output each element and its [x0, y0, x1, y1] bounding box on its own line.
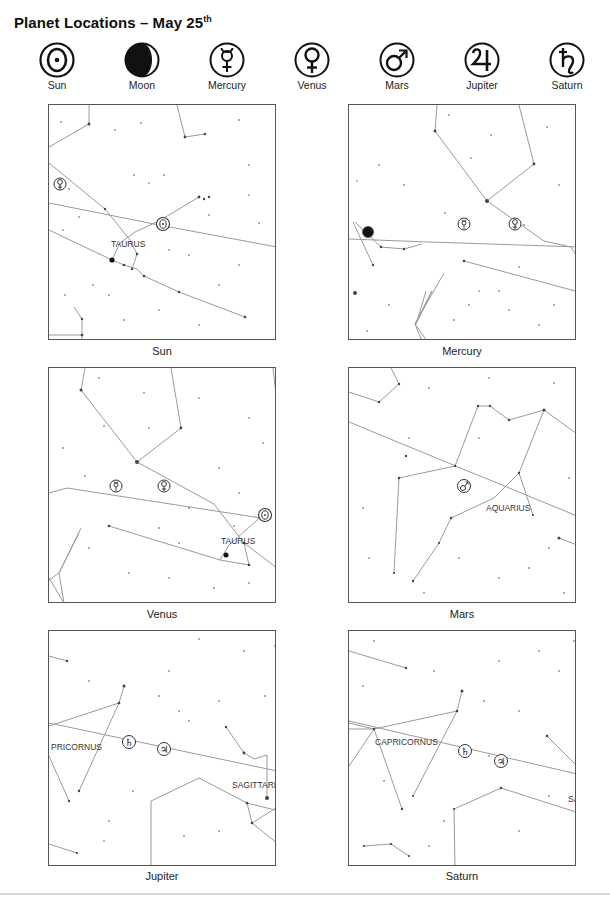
mars-icon — [379, 42, 415, 78]
mercury-icon — [209, 42, 245, 78]
saturn-marker: ♄ — [123, 736, 136, 749]
jupiter-marker: ♃ — [158, 743, 171, 756]
star-chart: CAPRICORNUS SA ♄ ♃ — [349, 631, 576, 866]
legend-label: Venus — [277, 79, 347, 91]
sky-panel-mercury — [348, 104, 576, 340]
jupiter-glyph: ♃ — [497, 756, 506, 767]
legend-venus: Venus — [277, 42, 347, 91]
legend-label: Sun — [22, 79, 92, 91]
sky-panel-saturn: CAPRICORNUS SA ♄ ♃ — [348, 630, 576, 866]
constellation-label: AQUARIUS — [486, 503, 531, 513]
venus-icon — [294, 42, 330, 78]
mars-marker — [458, 480, 471, 493]
star-chart: TAURUS — [49, 368, 276, 603]
constellation-label: SAGITTARI — [232, 780, 276, 790]
title-ordinal-suffix: th — [203, 14, 212, 24]
star-chart: TAURUS — [49, 105, 276, 340]
legend-moon: Moon — [107, 42, 177, 91]
sun-marker — [157, 218, 170, 231]
star-chart: AQUARIUS — [349, 368, 576, 603]
panel-caption-venus: Venus — [48, 608, 276, 620]
page-title: Planet Locations – May 25th — [14, 14, 212, 31]
sky-panel-jupiter: PRICORNUS SAGITTARI ♄ ♃ — [48, 630, 276, 866]
legend-label: Mercury — [192, 79, 262, 91]
legend-label: Mars — [362, 79, 432, 91]
jupiter-icon — [464, 42, 500, 78]
legend-mercury: Mercury — [192, 42, 262, 91]
legend-sun: Sun — [22, 42, 92, 91]
constellation-label: TAURUS — [221, 536, 256, 546]
sun-marker — [259, 509, 272, 522]
sky-panel-sun: TAURUS — [48, 104, 276, 340]
panel-caption-jupiter: Jupiter — [48, 870, 276, 882]
star-chart — [349, 105, 576, 340]
mercury-marker — [110, 480, 122, 492]
venus-marker — [509, 218, 521, 230]
legend-mars: Mars — [362, 42, 432, 91]
moon-icon — [124, 42, 160, 78]
bottom-divider — [0, 893, 610, 895]
legend-label: Saturn — [532, 79, 602, 91]
constellation-label: CAPRICORNUS — [375, 737, 438, 747]
sky-panel-mars: AQUARIUS — [348, 367, 576, 603]
star-chart: PRICORNUS SAGITTARI ♄ ♃ — [49, 631, 276, 866]
mercury-marker — [458, 218, 470, 230]
legend-jupiter: Jupiter — [447, 42, 517, 91]
panel-caption-sun: Sun — [48, 345, 276, 357]
legend-saturn: Saturn — [532, 42, 602, 91]
panel-caption-saturn: Saturn — [348, 870, 576, 882]
constellation-label: SA — [568, 794, 576, 804]
jupiter-marker: ♃ — [495, 755, 508, 768]
saturn-glyph: ♄ — [125, 737, 134, 748]
panel-caption-mars: Mars — [348, 608, 576, 620]
panel-caption-mercury: Mercury — [348, 345, 576, 357]
saturn-marker: ♄ — [459, 745, 472, 758]
saturn-glyph: ♄ — [461, 746, 470, 757]
planet-legend: Sun Moon Mercury Venus Mars Jupiter Satu… — [0, 42, 610, 94]
constellation-label: TAURUS — [111, 239, 146, 249]
sun-icon — [39, 42, 75, 78]
title-text: Planet Locations – May 25 — [14, 14, 203, 31]
sky-panel-venus: TAURUS — [48, 367, 276, 603]
legend-label: Moon — [107, 79, 177, 91]
venus-marker — [54, 178, 66, 190]
constellation-label: PRICORNUS — [51, 742, 102, 752]
jupiter-glyph: ♃ — [160, 744, 169, 755]
venus-marker — [158, 480, 170, 492]
legend-label: Jupiter — [447, 79, 517, 91]
saturn-icon — [549, 42, 585, 78]
